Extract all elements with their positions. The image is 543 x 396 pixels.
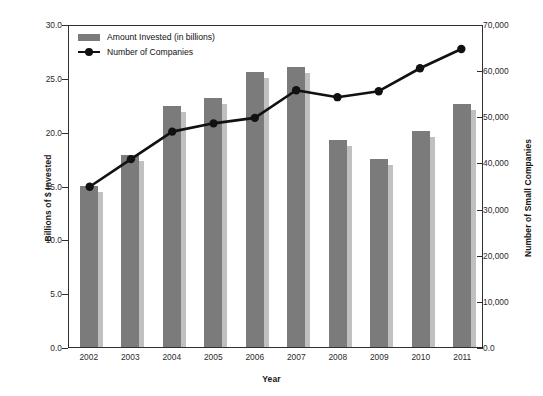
x-tick-label-2004: 2004: [162, 352, 181, 362]
y-left-tick-mark: [62, 79, 68, 80]
y-right-tick-mark: [477, 71, 483, 72]
y-left-tick-mark: [62, 133, 68, 134]
y-left-tick-label: 20.0: [46, 128, 62, 138]
legend-item-amount-invested: Amount Invested (in billions): [78, 32, 215, 42]
bar-swatch-icon: [78, 34, 100, 41]
x-tick-label-2003: 2003: [121, 352, 140, 362]
y-left-tick-mark: [62, 348, 68, 349]
y-left-tick-label: 30.0: [46, 20, 62, 30]
y-right-tick-mark: [477, 117, 483, 118]
legend: Amount Invested (in billions) Number of …: [78, 32, 215, 57]
legend-item-number-of-companies: Number of Companies: [78, 47, 215, 57]
line-marker-2003: [127, 155, 135, 163]
x-axis-title: Year: [0, 374, 543, 384]
y-left-tick-label: 5.0: [50, 289, 62, 299]
y-left-tick-mark: [62, 294, 68, 295]
line-marker-2002: [85, 183, 93, 191]
y-right-tick-label: 0.0: [483, 343, 495, 353]
y-right-tick-mark: [477, 256, 483, 257]
x-tick-label-2008: 2008: [328, 352, 347, 362]
legend-label-amount-invested: Amount Invested (in billions): [107, 32, 215, 42]
line-series-layer: [69, 26, 482, 347]
y-right-tick-label: 60,000: [483, 66, 509, 76]
y-left-tick-mark: [62, 187, 68, 188]
plot-area: Amount Invested (in billions) Number of …: [68, 25, 483, 348]
y-axis-left-ticks: 0.05.010.015.020.025.030.0: [18, 0, 62, 396]
line-marker-2008: [333, 93, 341, 101]
combo-chart: Billions of $ Invested Number of Small C…: [0, 0, 543, 396]
y-left-tick-label: 15.0: [46, 182, 62, 192]
line-path: [90, 49, 462, 187]
line-marker-2006: [251, 114, 259, 122]
plot-inner: [69, 26, 482, 347]
x-tick-label-2010: 2010: [411, 352, 430, 362]
y-axis-right-ticks: 0.010,00020,00030,00040,00050,00060,0007…: [483, 0, 535, 396]
y-right-tick-mark: [477, 348, 483, 349]
x-tick-label-2002: 2002: [79, 352, 98, 362]
line-marker-2009: [375, 87, 383, 95]
y-right-tick-mark: [477, 25, 483, 26]
line-marker-2004: [168, 127, 176, 135]
line-marker-2010: [416, 64, 424, 72]
x-tick-label-2009: 2009: [370, 352, 389, 362]
line-marker-2007: [292, 86, 300, 94]
y-left-tick-mark: [62, 240, 68, 241]
y-right-tick-mark: [477, 210, 483, 211]
y-right-tick-label: 40,000: [483, 158, 509, 168]
y-left-tick-label: 10.0: [46, 235, 62, 245]
x-tick-label-2005: 2005: [204, 352, 223, 362]
x-tick-label-2006: 2006: [245, 352, 264, 362]
legend-label-number-of-companies: Number of Companies: [107, 47, 193, 57]
y-right-tick-label: 30,000: [483, 205, 509, 215]
line-marker-2005: [209, 119, 217, 127]
y-right-tick-label: 20,000: [483, 251, 509, 261]
y-right-tick-mark: [477, 302, 483, 303]
line-circle-marker-icon: [78, 48, 100, 57]
y-left-tick-label: 25.0: [46, 74, 62, 84]
x-tick-label-2007: 2007: [287, 352, 306, 362]
y-right-tick-label: 50,000: [483, 112, 509, 122]
y-left-tick-label: 0.0: [50, 343, 62, 353]
y-right-tick-mark: [477, 163, 483, 164]
x-tick-label-2011: 2011: [453, 352, 471, 362]
line-marker-2011: [457, 45, 465, 53]
y-left-tick-mark: [62, 25, 68, 26]
y-right-tick-label: 70,000: [483, 20, 509, 30]
y-right-tick-label: 10,000: [483, 297, 509, 307]
